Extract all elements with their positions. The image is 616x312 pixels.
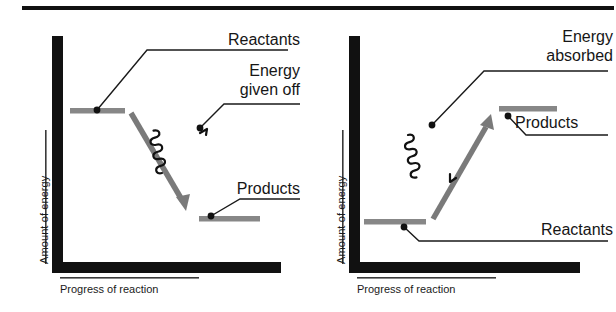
label-products: Products — [120, 179, 300, 198]
x-axis-end-cap — [272, 262, 281, 273]
y-axis — [52, 40, 63, 268]
y-axis-top-cap — [52, 36, 63, 44]
reaction-arrow-up — [433, 114, 494, 219]
products-level-bar — [499, 106, 557, 112]
x-axis — [349, 262, 580, 273]
x-axis-label: Progress of reaction — [60, 283, 158, 295]
x-caption-rule — [357, 277, 496, 279]
label-energy-given-off: Energy given off — [120, 61, 300, 99]
label-products: Products — [515, 113, 615, 132]
reactants-level-bar — [364, 219, 426, 225]
label-energy-absorbed: Energy absorbed — [433, 27, 613, 65]
y-axis — [349, 40, 360, 268]
panel-endothermic: Amount of energy Progress of reaction En… — [308, 0, 616, 312]
energy-given-off-leader — [197, 104, 300, 131]
x-caption-rule — [60, 277, 199, 279]
label-reactants: Reactants — [120, 30, 300, 49]
y-axis-label: Amount of energy — [38, 176, 50, 264]
y-axis-top-cap — [349, 36, 360, 44]
x-axis — [52, 262, 281, 273]
label-reactants: Reactants — [433, 220, 613, 239]
y-axis-label: Amount of energy — [335, 176, 347, 264]
x-axis-label: Progress of reaction — [357, 283, 455, 295]
x-axis-end-cap — [571, 262, 580, 273]
panel-exothermic: Amount of energy Progress of reaction Re… — [0, 0, 308, 312]
energy-absorbed-squiggle — [389, 133, 456, 182]
